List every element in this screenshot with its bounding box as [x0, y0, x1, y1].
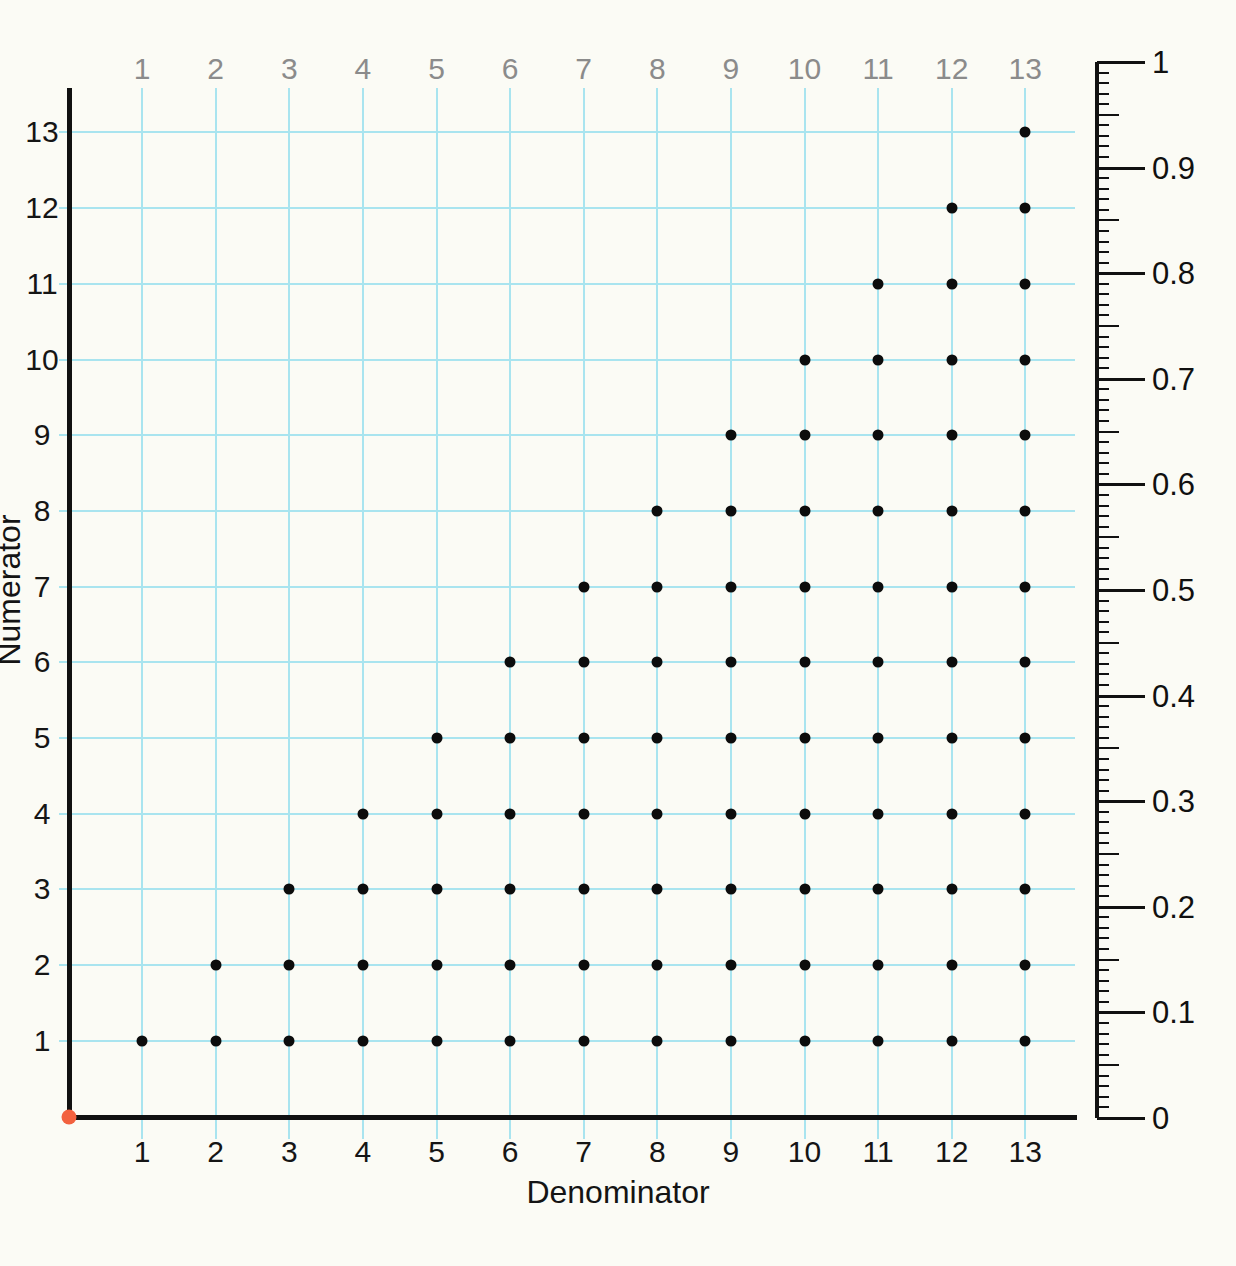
secondary-axis-tick-label: 0.1: [1152, 997, 1195, 1028]
ruler-tick-minor: [1097, 1043, 1109, 1045]
ruler-tick-major: [1097, 378, 1145, 381]
gridline-horizontal: [59, 737, 1076, 739]
data-point: [578, 733, 589, 744]
y-axis-tick-label: 10: [25, 345, 58, 375]
gridline-horizontal: [59, 359, 1076, 361]
y-axis-tick-label: 4: [34, 799, 51, 829]
x-axis-tick-label-top: 12: [935, 54, 968, 84]
x-axis-tick-label-bottom: 11: [863, 1137, 894, 1167]
data-point: [946, 808, 957, 819]
ruler-tick-major: [1097, 272, 1145, 275]
data-point: [652, 657, 663, 668]
ruler-tick-minor: [1097, 283, 1109, 285]
gridline-vertical: [288, 88, 290, 1139]
ruler-tick-med: [1097, 114, 1119, 116]
ruler-tick-minor: [1097, 93, 1109, 95]
ruler-tick-minor: [1097, 135, 1109, 137]
ruler-tick-minor: [1097, 462, 1109, 464]
ruler-tick-minor: [1097, 188, 1109, 190]
data-point: [725, 884, 736, 895]
chart-canvas: 1234567891011121312345678910111213123456…: [0, 0, 1236, 1266]
gridline-horizontal: [59, 888, 1076, 890]
gridline-vertical: [877, 88, 879, 1139]
x-axis-tick-label-bottom: 5: [428, 1137, 445, 1167]
x-axis-tick-label-top: 11: [863, 54, 894, 84]
ruler-tick-med: [1097, 747, 1119, 749]
ruler-tick-minor: [1097, 198, 1109, 200]
gridline-vertical: [804, 88, 806, 1139]
ruler-tick-med: [1097, 219, 1119, 221]
data-point: [1020, 581, 1031, 592]
data-point: [284, 884, 295, 895]
data-point: [946, 581, 957, 592]
data-point: [873, 505, 884, 516]
ruler-tick-med: [1097, 431, 1119, 433]
x-axis-tick-label-bottom: 1: [134, 1137, 151, 1167]
data-point: [578, 884, 589, 895]
gridline-vertical: [436, 88, 438, 1139]
ruler-tick-minor: [1097, 557, 1109, 559]
y-axis-tick-label: 8: [34, 496, 51, 526]
ruler-tick-minor: [1097, 262, 1109, 264]
ruler-tick-minor: [1097, 515, 1109, 517]
data-point: [357, 1035, 368, 1046]
gridline-horizontal: [59, 131, 1076, 133]
x-axis-tick-label-top: 10: [788, 54, 821, 84]
data-point: [799, 1035, 810, 1046]
data-point: [873, 354, 884, 365]
ruler-tick-minor: [1097, 990, 1109, 992]
secondary-axis-tick-label: 0.5: [1152, 575, 1195, 606]
data-point: [652, 960, 663, 971]
y-axis-tick-label: 2: [34, 950, 51, 980]
data-point: [946, 884, 957, 895]
x-axis-tick-label-bottom: 6: [502, 1137, 519, 1167]
ruler-tick-minor: [1097, 346, 1109, 348]
y-axis-title: Numerator: [0, 514, 28, 665]
ruler-tick-minor: [1097, 916, 1109, 918]
data-point: [357, 808, 368, 819]
y-axis-tick-label: 5: [34, 723, 51, 753]
ruler-tick-minor: [1097, 663, 1109, 665]
x-axis-tick-label-top: 7: [575, 54, 592, 84]
x-axis-tick-label-top: 8: [649, 54, 666, 84]
ruler-tick-minor: [1097, 895, 1109, 897]
gridline-horizontal: [59, 283, 1076, 285]
gridline-horizontal: [59, 813, 1076, 815]
data-point: [1020, 657, 1031, 668]
ruler-tick-minor: [1097, 737, 1109, 739]
ruler-tick-minor: [1097, 409, 1109, 411]
data-point: [873, 808, 884, 819]
ruler-tick-minor: [1097, 388, 1109, 390]
data-point: [873, 884, 884, 895]
ruler-tick-minor: [1097, 842, 1109, 844]
data-point: [578, 808, 589, 819]
y-axis-tick-label: 3: [34, 874, 51, 904]
data-point: [799, 657, 810, 668]
secondary-axis-tick-label: 0.3: [1152, 786, 1195, 817]
data-point: [652, 1035, 663, 1046]
data-point: [505, 733, 516, 744]
secondary-axis-tick-label: 0.9: [1152, 152, 1195, 183]
ruler-tick-minor: [1097, 631, 1109, 633]
y-axis-tick-label: 13: [25, 117, 58, 147]
ruler-tick-minor: [1097, 177, 1109, 179]
ruler-tick-minor: [1097, 758, 1109, 760]
ruler-tick-minor: [1097, 82, 1109, 84]
y-axis-tick-label: 11: [26, 269, 57, 299]
y-axis-tick-label: 12: [25, 193, 58, 223]
ruler-tick-minor: [1097, 937, 1109, 939]
x-axis-tick-label-top: 6: [502, 54, 519, 84]
ruler-tick-minor: [1097, 1096, 1109, 1098]
ruler-tick-minor: [1097, 821, 1109, 823]
ruler-tick-med: [1097, 536, 1119, 538]
gridline-vertical: [509, 88, 511, 1139]
gridline-vertical: [141, 88, 143, 1139]
data-point: [946, 657, 957, 668]
data-point: [799, 960, 810, 971]
ruler-tick-major: [1097, 167, 1145, 170]
gridline-vertical: [730, 88, 732, 1139]
x-axis-title: Denominator: [526, 1174, 709, 1211]
ruler-tick-minor: [1097, 547, 1109, 549]
data-point: [1020, 733, 1031, 744]
data-point: [725, 1035, 736, 1046]
